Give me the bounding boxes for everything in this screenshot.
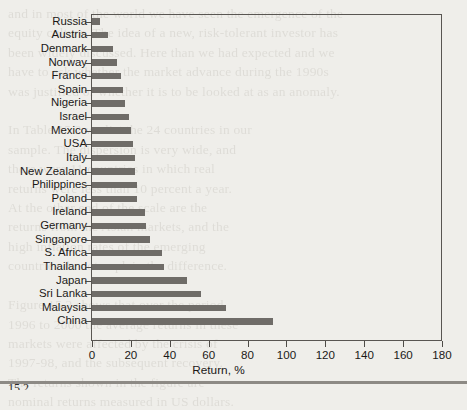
bar-israel — [92, 114, 129, 120]
bar-russia — [92, 18, 100, 24]
x-axis-title-text: Return, % — [192, 363, 244, 377]
bar-spain — [92, 87, 123, 93]
x-axis-tick-label-60: 60 — [202, 348, 215, 361]
bar-singapore — [92, 236, 150, 242]
bar-sri-lanka — [92, 291, 201, 297]
bar-malaysia — [92, 305, 226, 311]
x-axis-tick — [248, 341, 249, 347]
bar-nigeria — [92, 100, 125, 106]
x-axis-tick — [92, 341, 93, 347]
bar-s-africa — [92, 250, 162, 256]
x-axis-tick — [209, 341, 210, 347]
bar-italy — [92, 155, 135, 161]
bar-norway — [92, 59, 117, 65]
bar-usa — [92, 141, 133, 147]
bar-japan — [92, 277, 187, 283]
x-axis-tick — [286, 341, 287, 347]
x-axis-tick — [170, 341, 171, 347]
x-axis-tick — [325, 341, 326, 347]
x-axis-tick — [403, 341, 404, 347]
x-axis-tick-label-80: 80 — [241, 348, 254, 361]
bar-poland — [92, 196, 137, 202]
bar-china — [92, 318, 273, 324]
bar-series — [0, 14, 467, 341]
x-axis-tick — [364, 341, 365, 347]
x-axis-tick-label-160: 160 — [393, 348, 412, 361]
x-axis-tick-label-0: 0 — [89, 348, 95, 361]
bar-germany — [92, 223, 146, 229]
show-through-line: nominal returns measured in US dollars. — [8, 392, 457, 410]
x-axis-tick-label-180: 180 — [432, 348, 451, 361]
x-axis-tick-label-140: 140 — [355, 348, 374, 361]
bar-denmark — [92, 46, 113, 52]
figure-caption: 15.2 — [8, 381, 29, 390]
x-axis-tick-label-120: 120 — [316, 348, 335, 361]
x-axis-tick-label-40: 40 — [163, 348, 176, 361]
bar-new-zealand — [92, 168, 135, 174]
x-axis-title: Return, % — [0, 363, 467, 377]
bar-mexico — [92, 127, 131, 133]
bar-ireland — [92, 209, 145, 215]
x-axis-tick — [442, 341, 443, 347]
x-axis-tick-label-20: 20 — [124, 348, 137, 361]
bar-thailand — [92, 264, 164, 270]
bar-philippines — [92, 182, 137, 188]
bar-france — [92, 73, 121, 79]
x-axis-tick-label-100: 100 — [277, 348, 296, 361]
bar-austria — [92, 32, 108, 38]
x-axis-tick — [131, 341, 132, 347]
